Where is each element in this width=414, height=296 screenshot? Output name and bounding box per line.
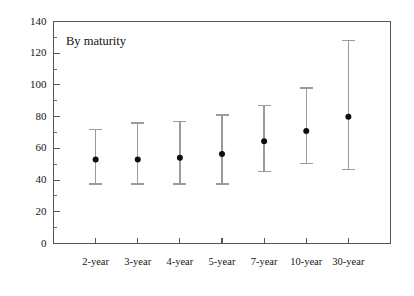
x-tick-label: 5-year <box>209 256 236 267</box>
x-tick-label: 4-year <box>166 256 193 267</box>
y-tick-label: 120 <box>30 46 47 58</box>
x-tick-label: 3-year <box>124 256 151 267</box>
x-tick-label: 7-year <box>251 256 278 267</box>
median-marker <box>177 155 183 161</box>
maturity-range-chart: 020406080100120140 2-year3-year4-year5-y… <box>0 0 414 296</box>
y-tick-label: 60 <box>36 141 48 153</box>
y-tick-label: 140 <box>30 15 47 27</box>
y-tick-label: 100 <box>30 78 47 90</box>
chart-annotation-label: By maturity <box>66 34 127 48</box>
y-tick-label: 20 <box>36 205 48 217</box>
y-tick-label: 80 <box>36 110 48 122</box>
x-tick-label: 30-year <box>332 256 365 267</box>
median-marker <box>135 156 141 162</box>
y-tick-label: 0 <box>41 237 47 249</box>
chart-background <box>0 0 414 296</box>
median-marker <box>303 128 309 134</box>
median-marker <box>93 156 99 162</box>
median-marker <box>261 138 267 144</box>
median-marker <box>219 151 225 157</box>
y-tick-label: 40 <box>36 173 48 185</box>
x-tick-label: 10-year <box>290 256 323 267</box>
x-tick-label: 2-year <box>82 256 109 267</box>
chart-container: 020406080100120140 2-year3-year4-year5-y… <box>0 0 414 296</box>
median-marker <box>345 114 351 120</box>
